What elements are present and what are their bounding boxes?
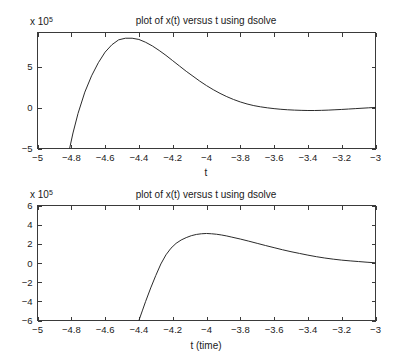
x-tick-label: −5 xyxy=(32,152,43,163)
y-tick-label: 5 xyxy=(27,61,32,72)
x-tick-label: −4.2 xyxy=(163,324,182,335)
chart-title-bottom: plot of x(t) versus t using dsolve xyxy=(136,189,277,200)
x-tick-label: −4.6 xyxy=(96,324,115,335)
x-axis-label-bottom: t (time) xyxy=(190,340,221,351)
plot-box-bottom xyxy=(38,206,376,321)
x-tick-label: −4.8 xyxy=(62,324,81,335)
x-tick-label: −5 xyxy=(32,324,43,335)
x-tick-label: −3.4 xyxy=(299,324,318,335)
y-axis-exponent-bottom: x 105 xyxy=(30,189,53,201)
x-tick-label: −3.2 xyxy=(332,152,351,163)
x-tick-label: −4.4 xyxy=(130,324,149,335)
y-tick-label: 4 xyxy=(27,219,32,230)
y-tick-labels-top: −505 xyxy=(22,61,33,154)
x-axis-label-top: t xyxy=(205,167,208,178)
chart-figure-top: −5−4.8−4.6−4.4−4.2−4−3.8−3.6−3.4−3.2−3 −… xyxy=(0,0,401,181)
y-tick-label: 2 xyxy=(27,238,32,249)
plot-box-top xyxy=(38,33,376,149)
x-tick-label: −3.2 xyxy=(332,324,351,335)
y-tick-label: −5 xyxy=(22,143,33,154)
data-curve-top xyxy=(70,38,376,148)
x-tick-labels-bottom: −5−4.8−4.6−4.4−4.2−4−3.8−3.6−3.4−3.2−3 xyxy=(32,324,381,335)
chart-figure-bottom: −5−4.8−4.6−4.4−4.2−4−3.8−3.6−3.4−3.2−3 −… xyxy=(0,181,401,362)
y-tick-label: 0 xyxy=(27,258,32,269)
x-tick-label: −3.8 xyxy=(231,324,250,335)
y-tick-labels-bottom: −6−4−20246 xyxy=(22,200,33,326)
x-tick-label: −4 xyxy=(201,152,212,163)
x-tick-labels-top: −5−4.8−4.6−4.4−4.2−4−3.8−3.6−3.4−3.2−3 xyxy=(32,152,381,163)
x-tick-label: −3 xyxy=(370,324,381,335)
chart-canvas-top: −5−4.8−4.6−4.4−4.2−4−3.8−3.6−3.4−3.2−3 −… xyxy=(0,0,401,181)
x-tick-label: −4.2 xyxy=(163,152,182,163)
y-exponent-prefix-bottom: x 10 xyxy=(30,189,49,200)
tick-marks-bottom xyxy=(38,206,377,322)
y-exponent-prefix-top: x 10 xyxy=(30,16,49,27)
x-tick-label: −4 xyxy=(201,324,212,335)
x-tick-label: −4.4 xyxy=(130,152,149,163)
x-tick-label: −3.8 xyxy=(231,152,250,163)
y-tick-label: −2 xyxy=(22,277,33,288)
x-tick-label: −3.6 xyxy=(265,324,284,335)
x-tick-label: −3 xyxy=(370,152,381,163)
tick-marks-top xyxy=(38,33,377,150)
y-exponent-power-top: 5 xyxy=(49,16,53,23)
chart-canvas-bottom: −5−4.8−4.6−4.4−4.2−4−3.8−3.6−3.4−3.2−3 −… xyxy=(0,181,401,362)
chart-title-top: plot of x(t) versus t using dsolve xyxy=(136,15,277,26)
x-tick-label: −3.6 xyxy=(265,152,284,163)
x-tick-label: −4.8 xyxy=(62,152,81,163)
y-axis-exponent-top: x 105 xyxy=(30,16,53,28)
data-curve-bottom xyxy=(139,233,376,320)
y-exponent-power-bottom: 5 xyxy=(49,189,53,196)
x-tick-label: −3.4 xyxy=(299,152,318,163)
x-tick-label: −4.6 xyxy=(96,152,115,163)
y-tick-label: 0 xyxy=(27,102,32,113)
y-tick-label: −6 xyxy=(22,315,33,326)
y-tick-label: −4 xyxy=(22,296,33,307)
y-tick-label: 6 xyxy=(27,200,32,211)
